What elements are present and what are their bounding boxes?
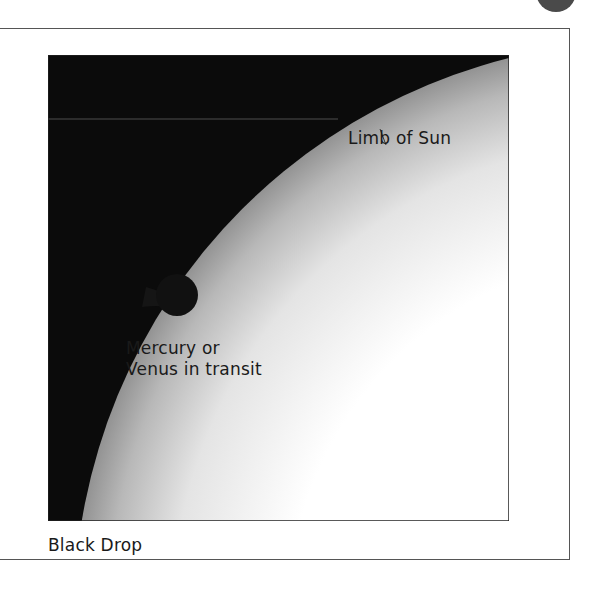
transit-diagram [48,55,509,521]
figure-caption: Black Drop [48,535,142,556]
planet-label-line2: Venus in transit [126,359,262,380]
planet-label: Mercury or Venus in transit [126,338,262,380]
corner-page-badge [536,0,576,12]
sun-limb-illustration [48,55,509,521]
limb-label: Limb of Sun [348,128,451,149]
planet-disc [156,274,198,316]
planet-label-line1: Mercury or [126,338,262,359]
